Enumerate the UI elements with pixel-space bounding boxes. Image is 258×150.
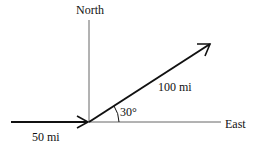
- vector-50mi-label: 50 mi: [32, 131, 60, 143]
- north-label: North: [76, 4, 104, 16]
- diagram-canvas: [0, 0, 258, 150]
- east-label: East: [225, 118, 246, 130]
- vector-100mi-label: 100 mi: [158, 81, 192, 93]
- vector-50mi-arrow: [11, 116, 88, 128]
- angle-label: 30°: [120, 106, 137, 118]
- vector-diagram: North East 50 mi 100 mi 30°: [0, 0, 258, 150]
- angle-arc: [114, 106, 119, 122]
